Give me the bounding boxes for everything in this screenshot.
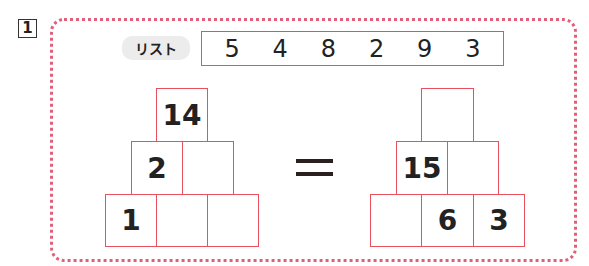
pyramid-cell[interactable] <box>370 194 422 247</box>
number-list: 5 4 8 2 9 3 <box>201 31 504 66</box>
question-number: 1 <box>18 19 37 38</box>
pyramid-cell[interactable]: 6 <box>421 194 474 247</box>
list-value: 5 <box>217 35 247 63</box>
pyramid-cell[interactable]: 1 <box>105 194 157 247</box>
pyramid-cell[interactable]: 3 <box>473 194 525 247</box>
pyramid-cell[interactable] <box>156 194 208 247</box>
pyramid-cell[interactable]: 2 <box>131 141 183 195</box>
list-label: リスト <box>122 36 190 60</box>
pyramid-cell[interactable] <box>207 194 259 247</box>
pyramid-cell[interactable] <box>182 141 234 195</box>
pyramid-cell[interactable] <box>421 88 474 142</box>
pyramid-cell[interactable]: 14 <box>156 88 208 142</box>
list-value: 4 <box>265 35 295 63</box>
list-value: 8 <box>313 35 343 63</box>
list-value: 3 <box>458 35 488 63</box>
list-value: 2 <box>362 35 392 63</box>
pyramid-cell[interactable] <box>447 141 499 195</box>
list-value: 9 <box>410 35 440 63</box>
pyramid-cell[interactable]: 15 <box>396 141 448 195</box>
